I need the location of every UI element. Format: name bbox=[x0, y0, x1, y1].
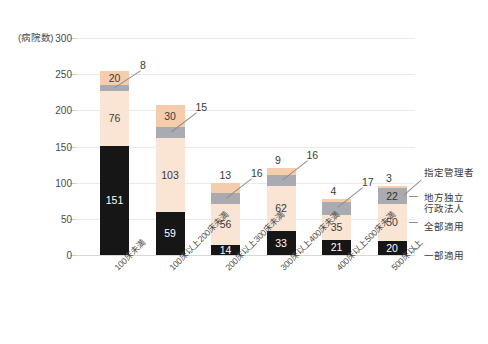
bar-segment-callout-label: 4 bbox=[331, 185, 337, 197]
legend-leader-dokuritsu bbox=[409, 196, 419, 197]
bar-segment-dokuritsu[interactable]: 22 bbox=[378, 188, 407, 204]
bar-segment-zenbu[interactable]: 103 bbox=[156, 138, 185, 213]
bar-segment-callout-label: 16 bbox=[251, 167, 263, 179]
bar-segment-shitei[interactable]: 20 bbox=[100, 71, 129, 85]
bar-segment-value-label: 59 bbox=[164, 228, 176, 239]
bar-segment-callout-label: 17 bbox=[362, 176, 374, 188]
y-tick-label-0: 0 bbox=[46, 250, 72, 261]
bar-segment-value-label: 33 bbox=[275, 238, 287, 249]
gridline-300 bbox=[76, 38, 415, 39]
y-tick-label-wrap-0: 0 bbox=[40, 0, 72, 344]
bar-segment-callout-label: 16 bbox=[307, 149, 319, 161]
bar-segment-value-label: 22 bbox=[386, 191, 398, 202]
bar-segment-value-label: 14 bbox=[220, 245, 232, 256]
legend-label-shitei[interactable]: 指定管理者 bbox=[424, 167, 474, 178]
stacked-bar-chart: (病院数) 300250200150100500 207615130103595… bbox=[0, 0, 488, 344]
bar-segment-value-label: 21 bbox=[331, 242, 343, 253]
legend-label-ichibu[interactable]: 一部適用 bbox=[424, 250, 464, 261]
bar-segment-value-label: 76 bbox=[109, 113, 121, 124]
bar-segment-callout-label: 3 bbox=[386, 172, 392, 184]
bar-segment-ichibu[interactable]: 151 bbox=[100, 146, 129, 255]
legend-label-dokuritsu[interactable]: 地方独立 行政法人 bbox=[424, 192, 464, 214]
bar-segment-callout-label: 8 bbox=[140, 59, 146, 71]
bar-segment-value-label: 20 bbox=[109, 73, 121, 84]
bar-segment-zenbu[interactable]: 76 bbox=[100, 91, 129, 146]
bar-segment-callout-label: 15 bbox=[196, 101, 208, 113]
bar-segment-callout-label: 13 bbox=[220, 169, 232, 181]
bar-segment-value-label: 103 bbox=[161, 170, 179, 181]
bar-segment-value-label: 20 bbox=[386, 243, 398, 254]
legend-leader-ichibu bbox=[409, 248, 419, 249]
bar-segment-dokuritsu[interactable] bbox=[267, 175, 296, 187]
bar-column[interactable]: 3010359 bbox=[156, 105, 185, 255]
bar-segment-value-label: 151 bbox=[106, 195, 124, 206]
legend-leader-zenbu bbox=[409, 222, 419, 223]
bar-segment-callout-label: 9 bbox=[275, 154, 281, 166]
bar-segment-value-label: 30 bbox=[164, 111, 176, 122]
legend-label-zenbu[interactable]: 全部適用 bbox=[424, 221, 464, 232]
bar-segment-dokuritsu[interactable] bbox=[156, 127, 185, 138]
bar-column[interactable]: 2076151 bbox=[100, 71, 129, 255]
